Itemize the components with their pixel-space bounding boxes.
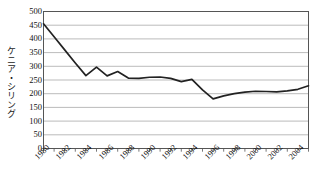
plot-area [0, 0, 319, 182]
line-chart: ケニア・シリング 500450400350300250200150100500 … [0, 0, 319, 182]
data-series [44, 24, 309, 99]
